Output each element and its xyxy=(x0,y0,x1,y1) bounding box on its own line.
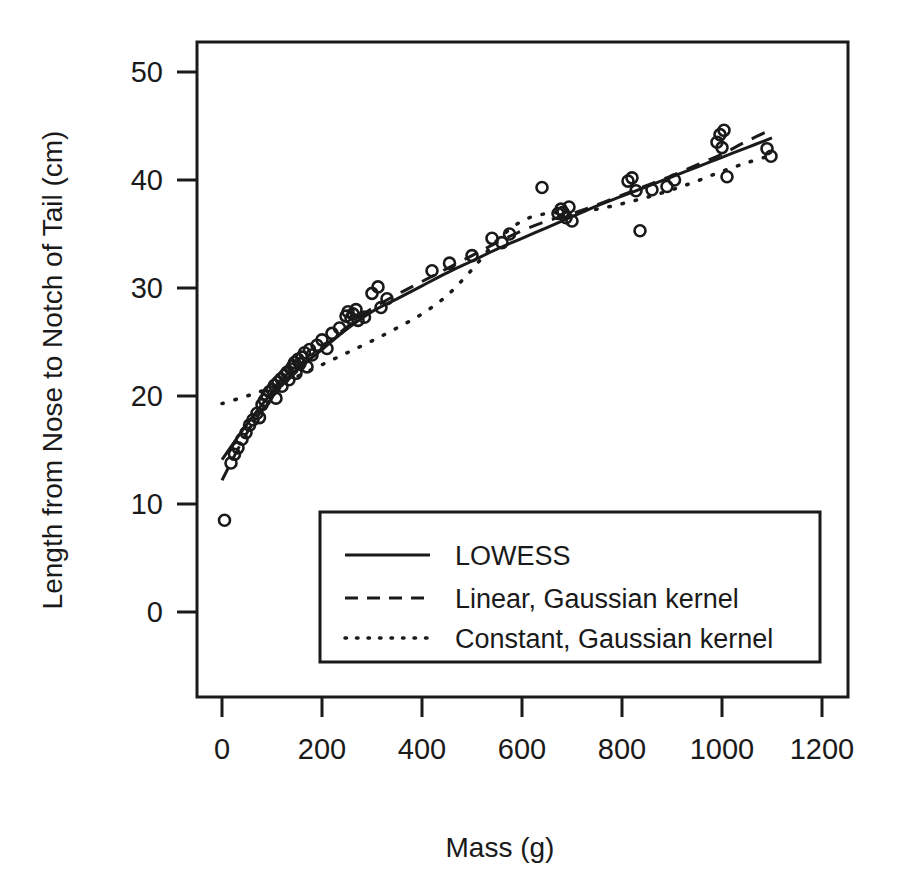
data-point-group xyxy=(219,125,777,526)
y-tick-label-30: 30 xyxy=(131,272,163,304)
data-point xyxy=(219,515,230,526)
legend-label-lowess: LOWESS xyxy=(455,541,571,571)
x-axis-title: Mass (g) xyxy=(446,832,555,863)
x-tick-label-1200: 1200 xyxy=(790,733,855,765)
curve-linear-gaussian-kernel xyxy=(222,129,772,480)
data-point xyxy=(537,182,548,193)
x-axis-ticks xyxy=(222,697,822,717)
data-point xyxy=(635,225,646,236)
data-point xyxy=(722,171,733,182)
y-tick-label-50: 50 xyxy=(131,56,163,88)
x-tick-label-1000: 1000 xyxy=(690,733,755,765)
x-tick-label-600: 600 xyxy=(498,733,546,765)
legend-label-constant-gaussian-kernel: Constant, Gaussian kernel xyxy=(455,624,773,654)
scatter-plot-figure: 020040060080010001200 01020304050 LOWESS… xyxy=(0,0,900,891)
x-axis-tick-labels: 020040060080010001200 xyxy=(214,733,854,765)
y-tick-label-0: 0 xyxy=(147,596,163,628)
y-tick-label-20: 20 xyxy=(131,380,163,412)
y-tick-label-40: 40 xyxy=(131,164,163,196)
x-tick-label-0: 0 xyxy=(214,733,230,765)
x-tick-label-400: 400 xyxy=(398,733,446,765)
chart-page: 020040060080010001200 01020304050 LOWESS… xyxy=(0,0,900,891)
y-axis-title: Length from Nose to Notch of Tail (cm) xyxy=(37,131,68,610)
curve-lowess xyxy=(222,138,772,460)
legend-label-linear-gaussian-kernel: Linear, Gaussian kernel xyxy=(455,584,739,614)
y-axis-tick-labels: 01020304050 xyxy=(131,56,163,628)
data-point xyxy=(427,265,438,276)
x-tick-label-800: 800 xyxy=(598,733,646,765)
legend: LOWESS Linear, Gaussian kernel Constant,… xyxy=(320,512,820,662)
x-tick-label-200: 200 xyxy=(298,733,346,765)
y-axis-ticks xyxy=(177,72,197,612)
y-tick-label-10: 10 xyxy=(131,488,163,520)
